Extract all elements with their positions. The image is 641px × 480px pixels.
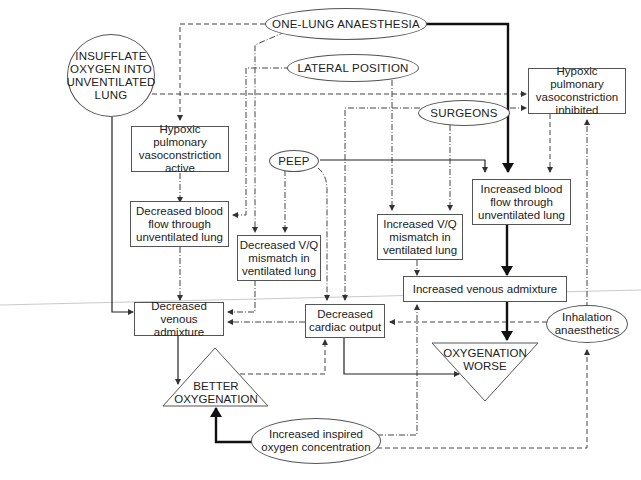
- edge-decvq-decvenous: [228, 280, 255, 312]
- node-decreased-vq-mismatch[interactable]: Decreased V/Q mismatch in ventilated lun…: [237, 235, 321, 281]
- node-inhalation-anaesthetics[interactable]: Inhalation anaesthetics: [546, 305, 628, 343]
- node-peep[interactable]: PEEP: [269, 150, 319, 172]
- node-one-lung-anaesthesia[interactable]: ONE-LUNG ANAESTHESIA: [265, 8, 427, 40]
- edge-onelung-hpvactive: [180, 24, 265, 120]
- node-decreased-venous-admixture[interactable]: Decreased venous admixture: [134, 302, 224, 336]
- node-increased-inspired-oxygen[interactable]: Increased inspired oxygen concentration: [251, 418, 381, 464]
- edge-lateral-decblood: [233, 68, 290, 215]
- edge-surgeons-deccardiac: [345, 108, 420, 300]
- label-oxygenation-worse: OXYGENATION WORSE: [440, 347, 530, 373]
- label-better-oxygenation: BETTER OXYGENATION: [168, 380, 264, 406]
- node-decreased-blood-flow[interactable]: Decreased blood flow through unventilate…: [130, 201, 229, 247]
- node-lateral-position[interactable]: LATERAL POSITION: [287, 54, 419, 82]
- edge-incinspired-betteroxy: [216, 408, 252, 442]
- node-decreased-cardiac-output[interactable]: Decreased cardiac output: [305, 304, 385, 338]
- node-hpv-inhibited[interactable]: Hypoxic pulmonary vasoconstriction inhib…: [528, 68, 626, 114]
- node-increased-blood-flow[interactable]: Increased blood flow through unventilate…: [472, 179, 571, 225]
- edge-onelung-incblood: [425, 24, 508, 172]
- edge-betteroxy-deccardiac: [240, 340, 325, 374]
- edge-onelung-decvq: [255, 32, 285, 232]
- node-insufflate-oxygen[interactable]: INSUFFLATE OXYGEN INTO UNVENTILATED LUNG: [67, 34, 155, 117]
- node-hpv-active[interactable]: Hypoxic pulmonary vasoconstriction activ…: [131, 126, 229, 172]
- node-increased-venous-admixture[interactable]: Increased venous admixture: [403, 276, 567, 302]
- node-surgeons[interactable]: SURGEONS: [418, 100, 510, 126]
- node-increased-vq-mismatch[interactable]: Increased V/Q mismatch in ventilated lun…: [377, 214, 463, 260]
